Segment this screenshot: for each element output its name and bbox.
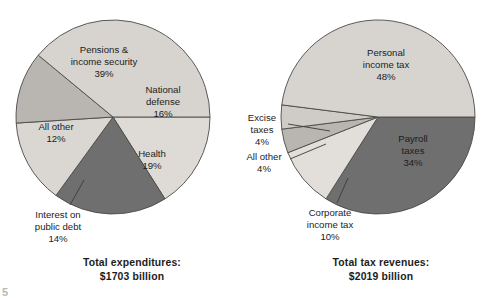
slice-label-line: All other xyxy=(246,151,282,162)
caption-value: $2019 billion xyxy=(349,271,413,282)
slice-label-value: 14% xyxy=(48,233,68,244)
slice-label-line: Excise xyxy=(248,112,276,123)
caption-value: $1703 billion xyxy=(100,271,164,282)
caption-title: Total expenditures: xyxy=(83,257,181,268)
charts-canvas: National defense 16% Health 19% All othe… xyxy=(0,0,492,298)
slice-label-line: taxes xyxy=(251,124,274,135)
corner-page-mark: 5 xyxy=(2,286,8,298)
slice-label-line: Interest on xyxy=(35,209,80,220)
slice-label-line: public debt xyxy=(35,221,82,232)
slice-label-line: Personal xyxy=(367,47,405,58)
slice-label-excise-taxes: Excise taxes 4% xyxy=(248,112,276,147)
slice-label-value: 39% xyxy=(94,68,114,79)
slice-label-value: 4% xyxy=(255,136,269,147)
slice-label-line: income tax xyxy=(363,59,410,70)
slice-label-line: Health xyxy=(138,148,166,159)
caption-tax-revenues: Total tax revenues: $2019 billion xyxy=(333,257,430,282)
pie-chart-tax-revenues: Payroll taxes 34% Personal income tax 48… xyxy=(246,20,475,282)
figure-two-pie-charts: National defense 16% Health 19% All othe… xyxy=(0,0,492,298)
slice-label-value: 19% xyxy=(142,160,162,171)
slice-label-line: income tax xyxy=(307,219,354,230)
slice-label-corporate-income-tax: Corporate income tax 10% xyxy=(307,207,354,242)
slice-label-line: National xyxy=(145,84,180,95)
slice-label-line: Payroll xyxy=(398,133,427,144)
slice-label-line: taxes xyxy=(402,145,425,156)
slice-label-line: All other xyxy=(38,121,74,132)
slice-label-line: Corporate xyxy=(309,207,352,218)
caption-title: Total tax revenues: xyxy=(333,257,430,268)
slice-label-value: 48% xyxy=(376,71,396,82)
slice-label-line: Pensions & xyxy=(80,44,129,55)
slice-label-value: 12% xyxy=(46,133,66,144)
slice-label-interest-public-debt: Interest on public debt 14% xyxy=(35,209,82,244)
slice-label-all-other-revenues: All other 4% xyxy=(246,151,282,174)
slice-label-value: 4% xyxy=(257,163,271,174)
slice-label-value: 10% xyxy=(320,231,340,242)
slice-label-line: defense xyxy=(146,96,180,107)
slice-label-value: 16% xyxy=(153,108,173,119)
slice-label-line: income security xyxy=(71,56,138,67)
caption-expenditures: Total expenditures: $1703 billion xyxy=(83,257,181,282)
slice-label-value: 34% xyxy=(403,157,423,168)
pie-chart-expenditures: National defense 16% Health 19% All othe… xyxy=(16,20,210,282)
